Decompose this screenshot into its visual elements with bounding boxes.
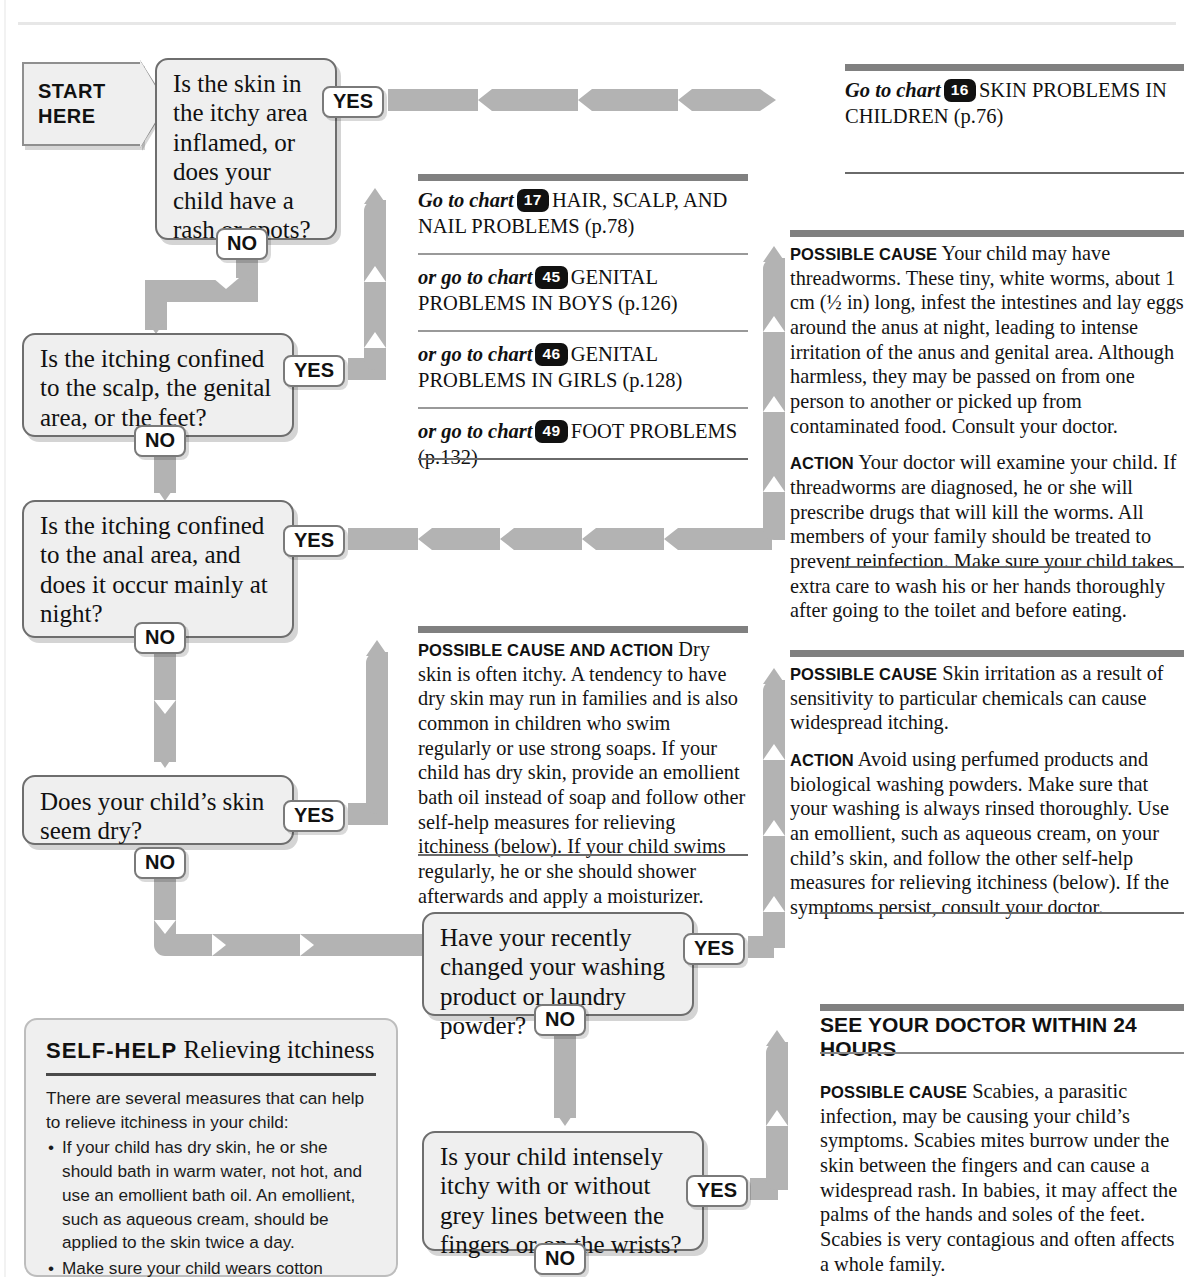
goto-16-page: (p.76) <box>954 105 1004 127</box>
cause-label: POSSIBLE CAUSE <box>790 665 937 683</box>
goto-45-prefix: or go to chart <box>418 266 532 288</box>
group-divider <box>418 407 748 409</box>
panel-bottom-rule <box>845 172 1184 174</box>
q5-yes-label: YES <box>694 937 734 959</box>
panel-top-rule <box>845 64 1184 71</box>
flowchart-page: START HERE Is the skin in the itchy area… <box>0 0 1184 1277</box>
self-help-item-text: Make sure your child wears cotton clothi… <box>62 1257 376 1277</box>
dryskin-bottom-rule <box>418 854 748 856</box>
threadworms-bottom-rule <box>845 566 1184 568</box>
action-text: Avoid using perfumed products and biolog… <box>790 748 1169 918</box>
threadworms-cause: POSSIBLE CAUSE Your child may have threa… <box>790 230 1184 438</box>
q5-no-answer[interactable]: NO <box>534 1004 586 1036</box>
arrow-tip-icon <box>154 485 176 501</box>
arrow-q4-yes-corner <box>366 652 388 814</box>
action-text: Your doctor will examine your child. If … <box>790 451 1177 621</box>
q1-no-label: NO <box>227 232 257 254</box>
panel-dry-skin: POSSIBLE CAUSE AND ACTION Dry skin is of… <box>418 626 748 908</box>
self-help-intro: There are several measures that can help… <box>46 1087 376 1134</box>
goto-chart-46[interactable]: or go to chart46GENITAL PROBLEMS IN GIRL… <box>418 341 748 393</box>
cause-text: Scabies, a parasitic infection, may be c… <box>820 1080 1177 1275</box>
start-here-flag: START HERE <box>22 62 142 146</box>
question-box-q1[interactable]: Is the skin in the itchy area inflamed, … <box>155 58 337 240</box>
q5-no-label: NO <box>545 1008 575 1030</box>
arrow-tip-icon <box>554 1110 576 1126</box>
goto-chart-16-text[interactable]: Go to chart16SKIN PROBLEMS IN CHILDREN (… <box>845 64 1184 129</box>
q3-no-label: NO <box>145 626 175 648</box>
question-q2-text: Is the itching confined to the scalp, th… <box>40 345 271 431</box>
self-help-title: SELF-HELP Relieving itchiness <box>46 1036 376 1064</box>
start-line2: HERE <box>38 104 142 129</box>
q2-no-label: NO <box>145 429 175 451</box>
scabies-heading-rule <box>820 1052 1184 1054</box>
q3-yes-label: YES <box>294 529 334 551</box>
arrow-tip-icon <box>763 668 785 684</box>
action-label: ACTION <box>790 751 854 769</box>
q4-no-answer[interactable]: NO <box>134 847 186 879</box>
goto-49-prefix: or go to chart <box>418 420 532 442</box>
question-box-q6[interactable]: Is your child intensely itchy with or wi… <box>422 1131 704 1251</box>
q3-no-answer[interactable]: NO <box>134 622 186 654</box>
dryskin-top-rule <box>418 626 748 633</box>
scabies-heading: SEE YOUR DOCTOR WITHIN 24 HOURS <box>820 1004 1184 1068</box>
panel-goto-chart-16: Go to chart16SKIN PROBLEMS IN CHILDREN (… <box>845 64 1184 129</box>
q5-yes-answer[interactable]: YES <box>683 933 745 965</box>
q4-yes-label: YES <box>294 804 334 826</box>
threadworms-action: ACTION Your doctor will examine your chi… <box>790 438 1184 623</box>
panel-threadworms: POSSIBLE CAUSE Your child may have threa… <box>790 230 1184 623</box>
bullet-icon: • <box>48 1136 54 1255</box>
self-help-item: • If your child has dry skin, he or she … <box>46 1136 376 1255</box>
arrow-tip-icon <box>760 89 776 111</box>
q4-yes-answer[interactable]: YES <box>283 800 345 832</box>
q6-no-label: NO <box>545 1247 575 1269</box>
q4-no-label: NO <box>145 851 175 873</box>
group-bottom-rule <box>418 458 748 460</box>
cause-label: POSSIBLE CAUSE <box>820 1083 967 1101</box>
q2-no-answer[interactable]: NO <box>134 425 186 457</box>
question-box-q5[interactable]: Have your recently changed your washing … <box>422 912 694 1016</box>
goto-chart-17[interactable]: Go to chart17HAIR, SCALP, AND NAIL PROBL… <box>418 187 748 239</box>
panel-chemicals: POSSIBLE CAUSE Skin irritation as a resu… <box>790 650 1184 920</box>
chart-number-badge: 17 <box>517 189 549 212</box>
chemicals-cause: POSSIBLE CAUSE Skin irritation as a resu… <box>790 650 1184 735</box>
goto-49-title: FOOT PROBLEMS <box>571 420 738 442</box>
dryskin-label: POSSIBLE CAUSE AND ACTION <box>418 641 673 659</box>
goto-46-prefix: or go to chart <box>418 343 532 365</box>
question-box-q4[interactable]: Does your child’s skin seem dry? <box>22 775 294 845</box>
question-box-q2[interactable]: Is the itching confined to the scalp, th… <box>22 333 294 437</box>
self-help-subject: Relieving itchiness <box>183 1036 374 1063</box>
question-box-q3[interactable]: Is the itching confined to the anal area… <box>22 500 294 638</box>
q1-yes-label: YES <box>333 90 373 112</box>
chemicals-action: ACTION Avoid using perfumed products and… <box>790 735 1184 920</box>
arrow-q3-yes <box>348 528 772 550</box>
arrow-q4-no-corner <box>154 934 424 956</box>
group-divider <box>418 253 748 255</box>
chart-number-badge: 49 <box>535 420 567 443</box>
question-q1-text: Is the skin in the itchy area inflamed, … <box>173 70 310 243</box>
dryskin-body: POSSIBLE CAUSE AND ACTION Dry skin is of… <box>418 626 748 908</box>
q1-yes-answer[interactable]: YES <box>322 86 384 118</box>
cause-label: POSSIBLE CAUSE <box>790 245 937 263</box>
arrow-q1-yes <box>388 89 760 111</box>
top-divider-rule <box>18 22 1176 25</box>
q2-yes-answer[interactable]: YES <box>283 355 345 387</box>
goto-chart-45[interactable]: or go to chart45GENITAL PROBLEMS IN BOYS… <box>418 264 748 316</box>
question-q6-text: Is your child intensely itchy with or wi… <box>440 1143 682 1258</box>
self-help-box: SELF-HELP Relieving itchiness There are … <box>24 1018 398 1277</box>
q6-yes-answer[interactable]: YES <box>686 1175 748 1207</box>
chart-number-badge: 16 <box>944 79 976 102</box>
start-line1: START <box>38 79 142 104</box>
cause-text: Your child may have threadworms. These t… <box>790 242 1184 437</box>
page-left-edge <box>4 0 6 1277</box>
group-divider <box>418 330 748 332</box>
chart-number-badge: 45 <box>535 266 567 289</box>
question-q3-text: Is the itching confined to the anal area… <box>40 512 268 627</box>
chemicals-top-rule <box>790 650 1184 657</box>
q6-no-answer[interactable]: NO <box>534 1243 586 1275</box>
q1-no-answer[interactable]: NO <box>216 228 268 260</box>
goto-chart-49[interactable]: or go to chart49FOOT PROBLEMS (p.132) <box>418 418 748 470</box>
q3-yes-answer[interactable]: YES <box>283 525 345 557</box>
action-label: ACTION <box>790 454 854 472</box>
arrow-tip-icon <box>763 246 785 262</box>
dryskin-text: Dry skin is often itchy. A tendency to h… <box>418 638 745 907</box>
